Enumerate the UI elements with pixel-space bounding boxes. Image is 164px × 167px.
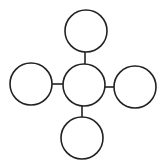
nodes [10,10,156,159]
center-circle [63,64,105,106]
node-top [65,10,107,52]
top-circle [65,10,107,52]
right-circle [114,66,156,108]
node-left [10,63,52,105]
node-right [114,66,156,108]
bottom-circle [61,117,103,159]
hub-and-spoke-diagram [0,0,164,167]
node-center-hub [63,64,105,106]
left-circle [10,63,52,105]
node-bottom [61,117,103,159]
